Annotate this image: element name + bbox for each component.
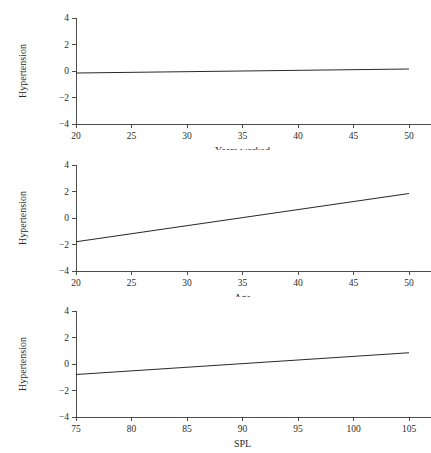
data-series-line (76, 69, 409, 73)
panel-age-svg: 420−2−420253035404550AgeHypertension (0, 147, 431, 297)
x-tick-label: 90 (238, 424, 248, 434)
y-tick-label: −4 (59, 412, 69, 422)
y-tick-label: 0 (64, 359, 69, 369)
y-tick-label: 2 (64, 333, 69, 343)
y-tick-label: 2 (64, 40, 69, 50)
panel-spl-svg: 420−2−47580859095100105SPLHypertension (0, 293, 431, 448)
x-tick-label: 35 (238, 278, 248, 288)
y-tick-label: 4 (64, 160, 69, 170)
data-series-line (76, 193, 409, 241)
panel-years-worked: 420−2−420253035404550Years workedHyperte… (0, 0, 431, 150)
y-tick-label: −2 (59, 386, 69, 396)
y-tick-label: 2 (64, 187, 69, 197)
x-tick-label: 50 (404, 131, 414, 141)
x-tick-label: 75 (71, 424, 81, 434)
y-tick-label: 0 (64, 66, 69, 76)
x-tick-label: 45 (349, 131, 359, 141)
x-tick-label: 30 (182, 278, 192, 288)
y-tick-label: −2 (59, 93, 69, 103)
x-tick-label: 40 (293, 131, 303, 141)
x-tick-label: 85 (182, 424, 192, 434)
y-axis-title: Hypertension (17, 337, 28, 391)
x-tick-label: 40 (293, 278, 303, 288)
data-series-line (76, 353, 409, 375)
y-tick-label: −4 (59, 266, 69, 276)
y-tick-label: 4 (64, 13, 69, 23)
x-tick-label: 25 (127, 278, 137, 288)
y-tick-label: 4 (64, 306, 69, 316)
x-tick-label: 20 (71, 131, 81, 141)
y-tick-label: 0 (64, 213, 69, 223)
x-tick-label: 100 (346, 424, 361, 434)
x-tick-label: 20 (71, 278, 81, 288)
x-tick-label: 80 (127, 424, 137, 434)
x-tick-label: 35 (238, 131, 248, 141)
y-axis-title: Hypertension (17, 44, 28, 98)
x-tick-label: 95 (293, 424, 303, 434)
x-tick-label: 50 (404, 278, 414, 288)
panel-age: 420−2−420253035404550AgeHypertension (0, 147, 431, 297)
x-axis-title: SPL (234, 438, 251, 448)
x-tick-label: 25 (127, 131, 137, 141)
x-tick-label: 30 (182, 131, 192, 141)
x-tick-label: 105 (402, 424, 417, 434)
x-tick-label: 45 (349, 278, 359, 288)
panel-years-worked-svg: 420−2−420253035404550Years workedHyperte… (0, 0, 431, 150)
y-tick-label: −4 (59, 119, 69, 129)
panel-spl: 420−2−47580859095100105SPLHypertension (0, 293, 431, 448)
y-tick-label: −2 (59, 240, 69, 250)
figure-root: 420−2−420253035404550Years workedHyperte… (0, 0, 431, 453)
y-axis-title: Hypertension (17, 191, 28, 245)
